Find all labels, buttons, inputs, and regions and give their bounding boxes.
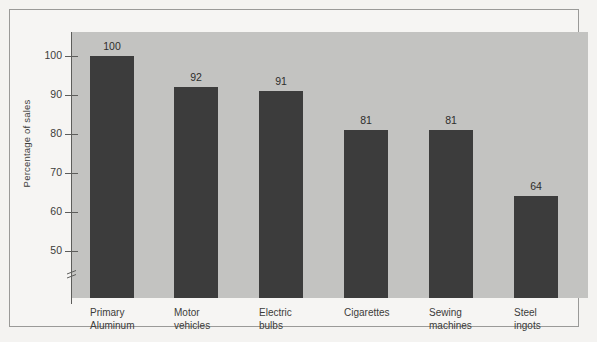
bar-value-steel-ingots: 64 xyxy=(514,181,558,192)
category-label-motor-vehicles: Motor vehicles xyxy=(174,307,254,332)
bar-chart-figure: 100 90 80 70 60 50 Percentage of xyxy=(0,0,597,342)
bar-value-sewing-machines: 81 xyxy=(429,115,473,126)
bar-value-cigarettes: 81 xyxy=(344,115,388,126)
bar-steel-ingots xyxy=(514,196,558,298)
bar-value-electric-bulbs: 91 xyxy=(259,76,303,87)
y-tick-60 xyxy=(65,212,78,213)
y-tick-70 xyxy=(65,173,78,174)
bar-primary-aluminum xyxy=(90,56,134,298)
y-axis-line xyxy=(71,32,72,304)
y-tick-label-60: 60 xyxy=(32,206,62,217)
axis-break-icon xyxy=(65,268,79,282)
bar-cigarettes xyxy=(344,130,388,298)
bar-value-primary-aluminum: 100 xyxy=(90,41,134,52)
y-tick-label-90: 90 xyxy=(32,89,62,100)
figure-frame: 100 90 80 70 60 50 Percentage of xyxy=(9,9,579,327)
y-tick-90 xyxy=(65,95,78,96)
bar-electric-bulbs xyxy=(259,91,303,298)
y-tick-50 xyxy=(65,251,78,252)
y-tick-80 xyxy=(65,134,78,135)
category-label-primary-aluminum: Primary Aluminum xyxy=(90,307,170,332)
y-tick-100 xyxy=(65,56,78,57)
bar-motor-vehicles xyxy=(174,87,218,298)
category-label-steel-ingots: Steel ingots xyxy=(514,307,594,332)
plot-area xyxy=(72,32,588,298)
y-axis-title: Percentage of sales xyxy=(21,84,32,204)
category-label-cigarettes: Cigarettes xyxy=(344,307,424,320)
y-tick-label-100: 100 xyxy=(32,50,62,61)
bar-value-motor-vehicles: 92 xyxy=(174,72,218,83)
category-label-electric-bulbs: Electric bulbs xyxy=(259,307,339,332)
category-label-sewing-machines: Sewing machines xyxy=(429,307,509,332)
bar-sewing-machines xyxy=(429,130,473,298)
y-tick-label-80: 80 xyxy=(32,128,62,139)
y-tick-label-70: 70 xyxy=(32,167,62,178)
y-tick-label-50: 50 xyxy=(32,245,62,256)
